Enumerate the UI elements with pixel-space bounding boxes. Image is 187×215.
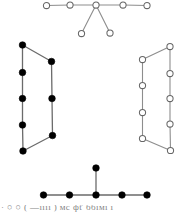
graph-node-open	[144, 2, 150, 8]
right-cycle-graph-edges	[143, 47, 171, 151]
graph-node-open	[93, 2, 99, 8]
graph-node-open	[139, 56, 145, 62]
graph-edge	[23, 125, 24, 151]
graph-node-open	[139, 109, 145, 115]
graph-node-filled	[19, 95, 26, 102]
graph-node-open	[167, 70, 173, 76]
graph-node-filled	[119, 192, 126, 199]
graph-edge	[23, 45, 52, 62]
graph-edge	[52, 99, 53, 136]
graph-node-filled	[144, 192, 151, 199]
graph-node-filled	[66, 192, 73, 199]
figure-root: · ○ ○ ( —ıııı ) мс фť ббıмı ı	[0, 0, 187, 215]
graph-edge	[96, 5, 110, 33]
graph-node-filled	[48, 58, 55, 65]
graph-node-filled	[19, 122, 26, 129]
graph-canvas	[0, 0, 187, 215]
graph-node-filled	[19, 42, 26, 49]
graph-node-filled	[19, 69, 26, 76]
graph-node-filled	[20, 148, 27, 155]
nodes-layer	[19, 2, 173, 198]
bottom-spider-graph-edges	[44, 168, 148, 195]
right-cycle-graph-nodes	[139, 43, 173, 153]
bottom-spider-graph-nodes	[40, 165, 150, 199]
graph-edge	[52, 62, 53, 99]
graph-node-filled	[49, 132, 56, 139]
top-spider-graph-nodes	[43, 2, 150, 37]
graph-edge	[143, 139, 171, 151]
graph-node-filled	[49, 95, 56, 102]
graph-node-open	[67, 2, 73, 8]
caption-strip: · ○ ○ ( —ıııı ) мс фť ббıмı ı	[0, 205, 187, 215]
graph-node-open	[139, 135, 145, 141]
graph-node-open	[167, 43, 173, 49]
graph-node-open	[120, 2, 126, 8]
graph-node-filled	[93, 165, 100, 172]
graph-node-open	[167, 147, 173, 153]
graph-node-filled	[93, 192, 100, 199]
graph-node-open	[167, 121, 173, 127]
graph-edge	[170, 124, 171, 151]
graph-node-open	[139, 82, 145, 88]
graph-node-open	[78, 30, 84, 36]
graph-edge	[82, 5, 97, 34]
top-spider-graph-edges	[47, 5, 148, 34]
graph-edge	[23, 136, 53, 152]
caption-text: · ○ ○ ( —ıııı ) мс фť ббıмı ı	[1, 205, 113, 212]
graph-node-open	[43, 2, 49, 8]
graph-node-open	[107, 30, 113, 36]
graph-edge	[143, 47, 171, 60]
left-cycle-graph-nodes	[19, 42, 56, 155]
graph-node-open	[167, 95, 173, 101]
graph-node-filled	[40, 192, 47, 199]
